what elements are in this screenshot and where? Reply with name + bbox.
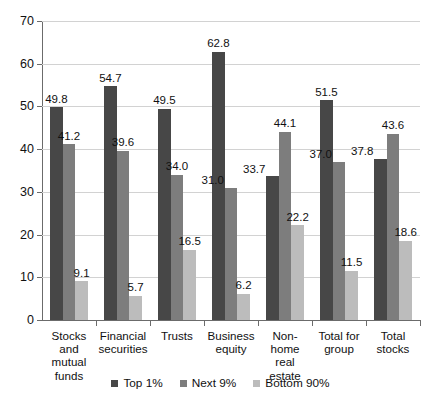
y-axis-label: 40	[20, 142, 34, 156]
x-axis-category-label: Total forgroup	[312, 329, 366, 355]
x-axis-category-label-line: funds	[42, 369, 96, 382]
bar-value-label: 34.0	[166, 161, 188, 173]
bar-group: 49.841.29.1	[42, 21, 96, 320]
y-axis-tick	[37, 320, 42, 321]
bar-group-bars: 37.843.618.6	[366, 21, 420, 320]
x-axis-line	[42, 320, 421, 321]
x-axis-category-label: Totalstocks	[366, 329, 420, 355]
x-axis-category-label-line: and mutual	[42, 342, 96, 368]
x-axis-tick	[420, 320, 421, 326]
x-axis-tick	[366, 320, 367, 326]
bar[interactable]: 49.5	[158, 109, 171, 320]
bar[interactable]: 16.5	[183, 250, 196, 320]
x-axis-category-label: Stocksand mutualfunds	[42, 329, 96, 382]
x-axis-category-label: Non-homereal estate	[258, 329, 312, 382]
bar-value-label: 6.2	[236, 280, 252, 292]
bar[interactable]: 51.5	[320, 100, 333, 320]
x-axis-category-label-line: real estate	[258, 355, 312, 381]
bar[interactable]: 39.6	[117, 151, 130, 320]
bar[interactable]: 11.5	[345, 271, 358, 320]
x-axis-category-label: Businessequity	[204, 329, 258, 355]
bar[interactable]: 18.6	[399, 241, 412, 320]
bar-value-label: 62.8	[207, 38, 229, 50]
bar-value-label: 9.1	[74, 268, 90, 280]
y-axis-label: 30	[20, 185, 34, 199]
x-axis-category-label-line: securities	[96, 342, 150, 355]
x-axis-category-label: Trusts	[150, 329, 204, 342]
x-axis-category-label-line: stocks	[366, 342, 420, 355]
bar-group-bars: 51.537.011.5	[312, 21, 366, 320]
bar[interactable]: 6.2	[237, 294, 250, 320]
dark-gray-swatch	[111, 380, 118, 387]
legend-item[interactable]: Top 1%	[111, 376, 162, 390]
bar[interactable]: 54.7	[104, 86, 117, 320]
bar-group: 37.843.618.6	[366, 21, 420, 320]
x-axis-category-label-line: equity	[204, 342, 258, 355]
bar-group: 33.744.122.2	[258, 21, 312, 320]
bar-group: 54.739.65.7	[96, 21, 150, 320]
bar[interactable]: 31.0	[225, 188, 238, 320]
x-axis-category-label-line: Financial	[96, 329, 150, 342]
bar-value-label: 49.8	[45, 94, 67, 106]
bar-value-label: 16.5	[178, 236, 200, 248]
bar[interactable]: 33.7	[266, 176, 279, 320]
bar[interactable]: 9.1	[75, 281, 88, 320]
y-axis-label: 60	[20, 57, 34, 71]
bar[interactable]: 37.0	[333, 162, 346, 320]
bar-value-label: 37.0	[310, 149, 332, 161]
x-axis-category-label-line: group	[312, 342, 366, 355]
bar-value-label: 51.5	[315, 87, 337, 99]
x-axis-category-label-line: Stocks	[42, 329, 96, 342]
bar-value-label: 43.6	[382, 120, 404, 132]
bar-group: 51.537.011.5	[312, 21, 366, 320]
y-axis-label: 10	[20, 270, 34, 284]
y-axis-label: 20	[20, 228, 34, 242]
bar-value-label: 18.6	[394, 227, 416, 239]
y-axis-label: 50	[20, 99, 34, 113]
bar[interactable]: 37.8	[374, 159, 387, 320]
y-axis-label: 70	[20, 14, 34, 28]
x-axis-tick	[150, 320, 151, 326]
bar-value-label: 54.7	[99, 73, 121, 85]
x-axis-category-label-line: Business	[204, 329, 258, 342]
bar-value-label: 5.7	[128, 282, 144, 294]
x-axis-tick	[312, 320, 313, 326]
bar-value-label: 39.6	[112, 137, 134, 149]
bar-group-bars: 49.841.29.1	[42, 21, 96, 320]
bar-value-label: 37.8	[351, 146, 373, 158]
legend-item-label: Top 1%	[123, 376, 162, 390]
y-axis-label: 0	[27, 313, 34, 327]
x-axis-tick	[204, 320, 205, 326]
bar-group-bars: 49.534.016.5	[150, 21, 204, 320]
plot-area: 01020304050607049.841.29.154.739.65.749.…	[42, 21, 420, 320]
x-axis-category-label-line: Non-home	[258, 329, 312, 355]
x-axis-category-label-line: Trusts	[150, 329, 204, 342]
x-axis-tick	[258, 320, 259, 326]
bar-value-label: 44.1	[274, 118, 296, 130]
bar-chart: 01020304050607049.841.29.154.739.65.749.…	[0, 0, 441, 402]
medium-gray-swatch	[180, 380, 187, 387]
bar[interactable]: 22.2	[291, 225, 304, 320]
legend-item[interactable]: Next 9%	[180, 376, 237, 390]
bar-group-bars: 33.744.122.2	[258, 21, 312, 320]
bar-group: 49.534.016.5	[150, 21, 204, 320]
x-axis-category-label-line: Total for	[312, 329, 366, 342]
bar-value-label: 33.7	[243, 164, 265, 176]
x-axis-category-label-line: Total	[366, 329, 420, 342]
x-axis-category-label: Financialsecurities	[96, 329, 150, 355]
bar[interactable]: 41.2	[63, 144, 76, 320]
bar-value-label: 31.0	[202, 175, 224, 187]
bar[interactable]: 44.1	[279, 132, 292, 320]
bar-value-label: 22.2	[286, 212, 308, 224]
bar[interactable]: 5.7	[129, 296, 142, 320]
bar-group-bars: 54.739.65.7	[96, 21, 150, 320]
x-axis-tick	[96, 320, 97, 326]
legend-item-label: Next 9%	[192, 376, 237, 390]
bar-value-label: 41.2	[58, 131, 80, 143]
bar-value-label: 11.5	[341, 257, 363, 269]
bar-value-label: 49.5	[153, 95, 175, 107]
